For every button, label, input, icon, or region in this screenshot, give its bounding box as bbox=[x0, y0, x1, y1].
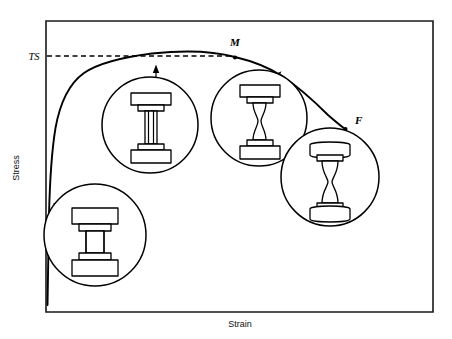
specimen-1-upper-grip bbox=[72, 208, 118, 224]
stress-strain-figure: TS M F Strain Stress bbox=[0, 0, 452, 339]
arrowhead-specimen-2 bbox=[153, 65, 159, 74]
specimen-4-upper-shoulder bbox=[317, 155, 343, 161]
callout-specimen-1 bbox=[44, 184, 146, 286]
tensile-strength-label: TS bbox=[28, 51, 40, 62]
callout-specimen-2 bbox=[102, 77, 198, 173]
stress-strain-diagram: TS M F Strain Stress bbox=[0, 0, 452, 339]
specimen-1-gauge-section bbox=[86, 231, 104, 253]
specimen-4-lower-grip bbox=[310, 206, 350, 222]
y-axis-label: Stress bbox=[11, 155, 21, 181]
specimen-2-upper-shoulder bbox=[138, 105, 164, 111]
specimen-2-lower-shoulder bbox=[138, 144, 164, 150]
specimen-3-upper-grip bbox=[240, 85, 280, 97]
specimen-2-lower-grip bbox=[131, 150, 171, 163]
callout-specimen-4 bbox=[281, 128, 379, 226]
specimen-1-lower-shoulder bbox=[79, 253, 111, 260]
specimen-2-gauge-section bbox=[145, 111, 157, 144]
specimen-2-upper-grip bbox=[131, 93, 171, 105]
specimen-3-upper-shoulder bbox=[247, 97, 273, 103]
fracture-point-label: F bbox=[354, 114, 363, 126]
max-point-label: M bbox=[229, 36, 241, 48]
max-point-marker bbox=[233, 55, 237, 59]
specimen-3-lower-shoulder bbox=[247, 140, 273, 146]
specimen-3-lower-grip bbox=[240, 146, 280, 159]
specimen-1-upper-shoulder bbox=[79, 224, 111, 231]
x-axis-label: Strain bbox=[228, 319, 252, 329]
specimen-1-lower-grip bbox=[72, 260, 118, 276]
